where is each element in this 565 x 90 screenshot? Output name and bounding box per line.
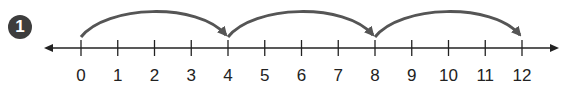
tick-label: 4 xyxy=(223,66,232,86)
tick-label: 9 xyxy=(407,66,416,86)
tick-label: 7 xyxy=(334,66,343,86)
jump-arcs xyxy=(81,12,520,37)
tick-label: 0 xyxy=(76,66,85,86)
left-arrow-icon xyxy=(44,44,53,52)
jump-arc xyxy=(228,12,373,37)
tick-label: 11 xyxy=(476,66,494,86)
tick-label: 5 xyxy=(260,66,269,86)
tick-label: 10 xyxy=(439,66,458,86)
tick-label: 2 xyxy=(150,66,159,86)
jump-arc xyxy=(375,12,520,37)
tick-label: 3 xyxy=(187,66,196,86)
tick-label: 8 xyxy=(370,66,379,86)
right-arrow-icon xyxy=(550,44,559,52)
jump-arc xyxy=(81,12,226,37)
tick-label: 6 xyxy=(297,66,306,86)
tick-label: 1 xyxy=(113,66,122,86)
tick-label: 12 xyxy=(513,66,532,86)
